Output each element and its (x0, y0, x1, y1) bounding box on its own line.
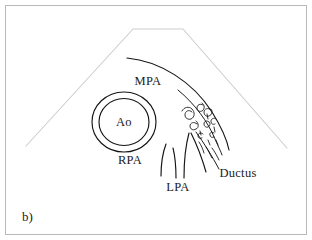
lpa-branch-wall-left (173, 148, 176, 178)
label-ao: Ao (116, 115, 132, 129)
label-ductus: Ductus (219, 166, 256, 180)
flow-curl-1 (182, 107, 194, 119)
flow-streak-2 (214, 127, 215, 132)
flow-streak-7 (206, 147, 212, 158)
lpa-branch-wall-right (184, 133, 189, 178)
turbulent-flow-marks (182, 103, 219, 160)
label-lpa: LPA (166, 180, 189, 194)
mpa-inner-arc (178, 90, 222, 155)
flow-curl-4 (190, 121, 198, 130)
label-rpa: RPA (118, 153, 142, 167)
flow-curl-3 (204, 109, 212, 117)
sector-cone-path (26, 29, 287, 148)
flow-streak-4 (208, 140, 210, 145)
flow-streak-6 (199, 142, 204, 153)
label-mpa: MPA (135, 74, 162, 88)
rpa-branch-wall (161, 144, 166, 176)
flow-curl-2 (197, 103, 204, 111)
flow-streak-3 (200, 131, 201, 135)
flow-streak-1 (207, 114, 208, 119)
flow-curl-6 (211, 118, 216, 124)
panel-letter-label: b) (22, 209, 33, 224)
anatomical-diagram: MPA Ao RPA LPA Ductus b) (0, 0, 312, 240)
figure-panel-b: MPA Ao RPA LPA Ductus b) (0, 0, 312, 240)
ductus-wall-outer (196, 132, 219, 169)
ultrasound-sector-outline (26, 29, 287, 148)
